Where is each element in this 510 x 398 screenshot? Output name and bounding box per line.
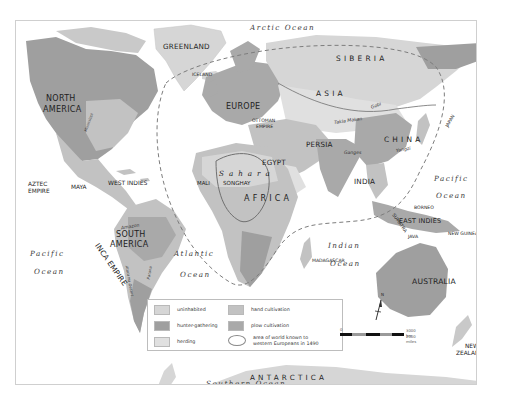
songhay-label: SONGHAY: [223, 181, 251, 187]
egypt-label: EGYPT: [262, 159, 286, 166]
legend-label: uninhabited: [177, 307, 206, 313]
legend-label: plow cultivation: [251, 323, 289, 329]
west-indies-label: WEST INDIES: [108, 180, 147, 186]
pacific-ocean-east-label-2: Ocean: [436, 192, 467, 199]
persia-label: PERSIA: [306, 141, 333, 148]
antarctic-peninsula-shape: [158, 363, 176, 385]
ottoman-empire-label-1: OTTOMAN: [252, 119, 275, 124]
north-america-label-1: NORTH: [46, 95, 76, 103]
madagascar-label: MADAGASCAR: [312, 259, 345, 264]
greenland-label: GREENLAND: [163, 43, 210, 50]
china-label: CHINA: [384, 136, 423, 143]
known-area-oval-icon: [228, 335, 246, 346]
plow-cultivation-swatch: [228, 321, 244, 331]
legend-label-known-area: area of world known to western Europeans…: [253, 335, 319, 347]
pacific-ocean-west-label-1: Pacific: [30, 250, 65, 257]
atlantic-ocean-label-1: Atlantic: [174, 250, 214, 257]
ottoman-empire-label-2: EMPIRE: [256, 125, 273, 130]
pacific-ocean-west-label-2: Ocean: [34, 268, 65, 275]
known-area-line-2: western Europeans in 1490: [253, 341, 319, 346]
new-zealand-label-1: NEW: [465, 344, 477, 350]
uninhabited-swatch: [154, 305, 170, 315]
scale-bar-graphic: [340, 333, 404, 336]
sahara-label: Sahara: [219, 170, 275, 177]
europe-label: EUROPE: [226, 103, 260, 111]
siberia-label: SIBERIA: [336, 55, 387, 62]
antarctica-label: ANTARCTICA: [250, 374, 327, 381]
east-indies-label: EAST INDIES: [399, 218, 441, 224]
north-america-label-2: AMERICA: [43, 106, 82, 114]
herding-swatch: [154, 337, 170, 347]
north-arrow-icon: N: [373, 296, 385, 322]
legend-item-hand-cultivation: hand cultivation: [228, 305, 290, 315]
hunter-gathering-swatch: [154, 321, 170, 331]
hand-cultivation-swatch: [228, 305, 244, 315]
maya-label: MAYA: [71, 185, 87, 191]
legend-item-herding: herding: [154, 337, 195, 347]
aztec-empire-label-2: EMPIRE: [28, 189, 50, 195]
ganges-label: Ganges: [344, 151, 361, 156]
legend-label: herding: [177, 339, 195, 345]
pacific-ocean-east-label-1: Pacific: [434, 175, 469, 182]
india-label: INDIA: [354, 178, 375, 185]
java-label: JAVA: [408, 235, 418, 240]
south-america-label-1: SOUTH: [116, 231, 146, 239]
australia-label: AUSTRALIA: [412, 278, 456, 286]
scale-zero-label: 0: [340, 327, 342, 332]
legend-item-plow-cultivation: plow cultivation: [228, 321, 289, 331]
arctic-ocean-label: Arctic Ocean: [250, 24, 315, 31]
mali-label: MALI: [197, 181, 210, 186]
africa-label: AFRICA: [244, 195, 292, 203]
north-label: N: [381, 293, 384, 297]
legend-label: hand cultivation: [251, 307, 290, 313]
scale-miles-label: 2000 miles: [406, 334, 416, 344]
known-area-line-1: area of world known to: [253, 335, 308, 340]
legend-item-uninhabited: uninhabited: [154, 305, 206, 315]
asia-label: ASIA: [316, 90, 346, 97]
borneo-label: BORNEO: [414, 206, 434, 211]
madagascar-shape: [300, 237, 312, 269]
new-zealand-label-2: ZEALAND: [456, 351, 477, 357]
legend-item-known-area: area of world known to western Europeans…: [228, 335, 319, 347]
legend-item-hunter-gathering: hunter-gathering: [154, 321, 218, 331]
legend-label: hunter-gathering: [177, 323, 218, 329]
map-legend: uninhabited hunter-gathering herding han…: [147, 299, 343, 351]
new-guinea-label: NEW GUINEA: [448, 232, 477, 237]
aztec-empire-label-1: AZTEC: [28, 182, 47, 188]
atlantic-ocean-label-2: Ocean: [180, 271, 211, 278]
indian-ocean-label-1: Indian: [328, 242, 360, 249]
iceland-label: ICELAND: [192, 73, 212, 78]
south-america-label-2: AMERICA: [110, 241, 149, 249]
